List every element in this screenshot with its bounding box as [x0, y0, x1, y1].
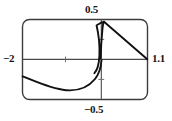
window-y-max-label: 0.5 — [85, 4, 98, 15]
window-y-min-label: −0.5 — [84, 104, 103, 115]
window-x-min-label: −2 — [3, 53, 14, 64]
graph-figure: 0.5 −0.5 −2 1.1 — [0, 0, 172, 121]
window-x-max-label: 1.1 — [152, 53, 165, 64]
